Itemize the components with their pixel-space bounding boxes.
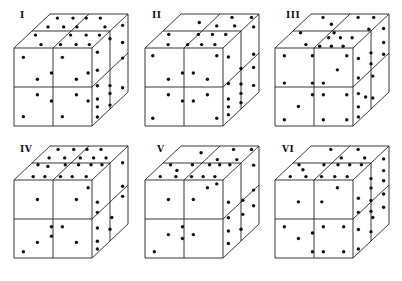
pip-right <box>241 213 244 216</box>
pip-front <box>86 99 89 102</box>
pip-right <box>357 76 360 79</box>
pip-top <box>233 24 236 27</box>
pip-front <box>345 93 348 96</box>
pip-right <box>227 216 230 219</box>
pip-right <box>382 157 385 160</box>
pip-right <box>357 105 360 108</box>
pip-top <box>230 16 233 19</box>
pip-top <box>56 16 59 19</box>
pip-right <box>371 96 374 99</box>
pip-right <box>121 161 124 164</box>
pip-front <box>86 186 89 189</box>
pip-right <box>371 216 374 219</box>
pip-top <box>46 165 49 168</box>
pip-right <box>252 204 255 207</box>
pip-top <box>47 156 50 159</box>
pip-right <box>357 197 360 200</box>
pip-front <box>151 54 154 57</box>
pip-right <box>227 105 230 108</box>
pip-right <box>96 69 99 72</box>
pip-front <box>322 118 325 121</box>
pip-top <box>360 163 363 166</box>
pip-top <box>103 25 106 28</box>
pip-right <box>227 55 230 58</box>
pip-right <box>96 247 99 250</box>
pip-front <box>36 198 39 201</box>
pip-front <box>75 93 78 96</box>
pip-top <box>63 156 66 159</box>
pip-top <box>99 148 102 151</box>
pip-top <box>56 148 59 151</box>
pip-right <box>96 105 99 108</box>
pip-front <box>297 105 300 108</box>
pip-front <box>22 56 25 59</box>
pip-top <box>169 163 172 166</box>
pip-front <box>192 233 195 236</box>
pip-top <box>330 45 333 48</box>
pip-top <box>79 156 82 159</box>
pip-top <box>198 21 201 24</box>
pip-front <box>50 234 53 237</box>
pip-right <box>239 82 242 85</box>
pip-top <box>71 16 74 19</box>
pip-right <box>357 247 360 250</box>
pip-top <box>320 175 323 178</box>
pip-front <box>61 56 64 59</box>
cube-v <box>145 146 259 258</box>
pip-right <box>96 211 99 214</box>
pip-right <box>96 201 99 204</box>
pip-top <box>356 16 359 19</box>
pip-right <box>252 66 255 69</box>
pip-right <box>369 177 372 180</box>
pip-top <box>191 163 194 166</box>
pip-right <box>239 228 242 231</box>
pip-front <box>215 182 218 185</box>
pip-right <box>121 56 124 59</box>
pip-top <box>348 163 351 166</box>
pip-top <box>215 24 218 27</box>
pip-top <box>202 175 205 178</box>
pip-right <box>108 228 111 231</box>
pip-top <box>250 148 253 151</box>
pip-top <box>84 33 87 36</box>
pip-top <box>339 36 342 39</box>
pip-top <box>74 43 77 46</box>
pip-right <box>357 92 360 95</box>
pip-front <box>61 225 64 228</box>
pip-front <box>167 93 170 96</box>
pip-front <box>75 78 78 81</box>
pip-top <box>69 33 72 36</box>
cube-iv <box>14 146 128 258</box>
pip-top <box>100 163 103 166</box>
pip-front <box>167 198 170 201</box>
pip-front <box>167 233 170 236</box>
pip-top <box>99 16 102 19</box>
pip-top <box>346 175 349 178</box>
pip-top <box>340 156 343 159</box>
pip-top <box>197 33 200 36</box>
pip-top <box>304 43 307 46</box>
pip-front <box>322 93 325 96</box>
pip-top <box>85 148 88 151</box>
pip-front <box>215 54 218 57</box>
pip-front <box>336 186 339 189</box>
pip-front <box>181 71 184 74</box>
pip-right <box>110 216 113 219</box>
pip-top <box>59 175 62 178</box>
pip-top <box>75 25 78 28</box>
pip-front <box>322 81 325 84</box>
pip-right <box>369 62 372 65</box>
pip-top <box>213 175 216 178</box>
pip-right <box>357 228 360 231</box>
pip-front <box>345 54 348 57</box>
pip-right <box>239 92 242 95</box>
cube-vi <box>275 146 389 258</box>
pip-front <box>283 54 286 57</box>
pip-top <box>104 156 107 159</box>
pip-top <box>218 163 221 166</box>
pip-right <box>369 199 372 202</box>
pip-right <box>96 115 99 118</box>
pip-front <box>322 225 325 228</box>
pip-top <box>333 175 336 178</box>
pip-front <box>342 225 345 228</box>
